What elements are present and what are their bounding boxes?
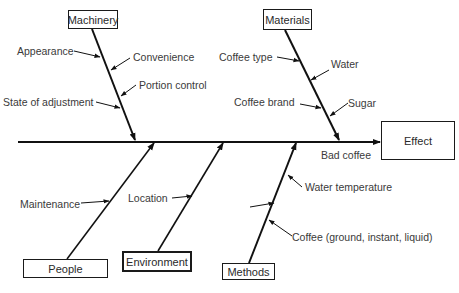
cause-label: Maintenance: [20, 199, 80, 210]
cause-label: Location: [128, 193, 168, 204]
category-materials: Materials: [263, 9, 312, 30]
category-people: People: [23, 259, 108, 278]
category-methods: Methods: [222, 263, 275, 280]
cause-label: Appearance: [17, 46, 74, 57]
problem-label: Bad coffee: [321, 150, 371, 161]
cause-label: Sugar: [348, 98, 376, 109]
cause-label: Water temperature: [305, 182, 392, 193]
cause-label: Coffee brand: [234, 97, 295, 108]
category-label: Environment: [126, 256, 188, 268]
category-label: Materials: [265, 14, 310, 26]
cause-label: Water: [331, 59, 359, 70]
cause-label: Convenience: [133, 52, 194, 63]
cause-label: Coffee (ground, instant, liquid): [292, 232, 432, 243]
category-label: People: [48, 263, 82, 275]
cause-label: Coffee type: [219, 52, 273, 63]
cause-label: Portion control: [139, 80, 207, 91]
category-label: Machinery: [68, 14, 119, 26]
category-environment: Environment: [122, 251, 192, 272]
effect-box: Effect: [381, 121, 455, 160]
category-machinery: Machinery: [68, 10, 118, 29]
effect-label: Effect: [404, 135, 432, 147]
cause-label: State of adjustment: [3, 97, 93, 108]
category-label: Methods: [227, 266, 269, 278]
